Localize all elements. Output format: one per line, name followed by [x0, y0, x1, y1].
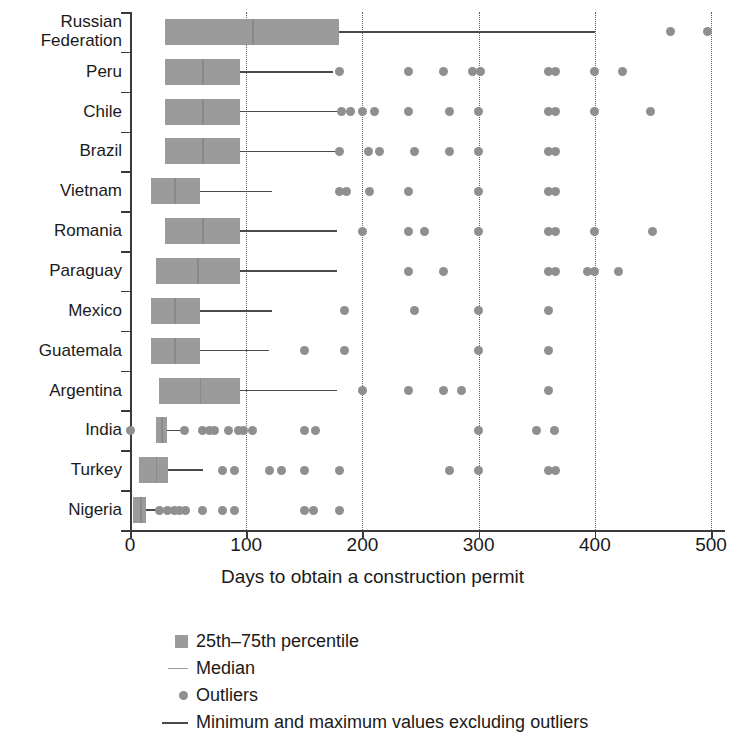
outlier-point — [340, 346, 349, 355]
outlier-point — [230, 466, 239, 475]
median-line — [161, 417, 163, 443]
y-tick — [121, 490, 130, 492]
legend-item: Minimum and maximum values excluding out… — [150, 709, 745, 736]
median-line — [200, 378, 202, 404]
outlier-point — [439, 267, 448, 276]
median-line — [202, 218, 204, 244]
outlier-point — [365, 187, 374, 196]
outlier-point — [410, 306, 419, 315]
short-line-icon-glyph — [168, 668, 188, 670]
outlier-point — [300, 346, 309, 355]
y-tick — [121, 211, 130, 213]
y-tick — [121, 251, 130, 253]
outlier-point — [474, 227, 483, 236]
outlier-point — [551, 466, 560, 475]
outlier-point — [474, 426, 483, 435]
outlier-point — [277, 466, 286, 475]
category-label-india: India — [0, 420, 122, 439]
outlier-point — [532, 426, 541, 435]
y-axis-line — [130, 12, 132, 530]
outlier-point — [551, 67, 560, 76]
outlier-point — [230, 506, 239, 515]
gridline-300 — [479, 12, 480, 530]
outlier-point — [404, 187, 413, 196]
y-tick — [121, 410, 130, 412]
outlier-point — [335, 147, 344, 156]
outlier-point — [544, 346, 553, 355]
outlier-point — [544, 306, 553, 315]
median-line — [202, 59, 204, 85]
outlier-point — [346, 107, 355, 116]
gridline-500 — [711, 12, 712, 530]
outlier-point — [300, 466, 309, 475]
legend-label: Minimum and maximum values excluding out… — [196, 712, 588, 733]
dot-icon-glyph — [179, 691, 188, 700]
outlier-point — [618, 67, 627, 76]
outlier-point — [358, 386, 367, 395]
category-label-turkey: Turkey — [0, 460, 122, 479]
legend-item: 25th–75th percentile — [150, 628, 745, 655]
outlier-point — [474, 107, 483, 116]
x-tick-label-0: 0 — [125, 534, 136, 556]
outlier-point — [342, 187, 351, 196]
outlier-point — [198, 506, 207, 515]
y-tick — [121, 530, 130, 532]
outlier-point — [457, 386, 466, 395]
outlier-point — [445, 466, 454, 475]
outlier-point — [474, 306, 483, 315]
x-tick-label-200: 200 — [347, 534, 379, 556]
outlier-point — [300, 426, 309, 435]
y-tick — [121, 132, 130, 134]
outlier-point — [474, 346, 483, 355]
outlier-point — [340, 306, 349, 315]
gridline-200 — [362, 12, 363, 530]
y-tick — [121, 371, 130, 373]
legend-label: Outliers — [196, 685, 258, 706]
outlier-point — [590, 227, 599, 236]
outlier-point — [218, 506, 227, 515]
outlier-point — [404, 386, 413, 395]
outlier-point — [404, 267, 413, 276]
outlier-point — [646, 107, 655, 116]
outlier-point — [335, 67, 344, 76]
outlier-point — [180, 426, 189, 435]
outlier-point — [445, 147, 454, 156]
x-tick-label-100: 100 — [230, 534, 262, 556]
outlier-point — [218, 466, 227, 475]
category-label-paraguay: Paraguay — [0, 261, 122, 280]
median-line — [174, 298, 176, 324]
boxplot-chart: Russian FederationPeruChileBrazilVietnam… — [0, 0, 745, 739]
x-tick-label-300: 300 — [463, 534, 495, 556]
outlier-point — [358, 107, 367, 116]
median-line — [174, 338, 176, 364]
outlier-point — [364, 147, 373, 156]
outlier-point — [224, 426, 233, 435]
outlier-point — [404, 67, 413, 76]
outlier-point — [370, 107, 379, 116]
outlier-point — [335, 506, 344, 515]
outlier-point — [648, 227, 657, 236]
outlier-point — [404, 227, 413, 236]
outlier-point — [375, 147, 384, 156]
median-line — [156, 457, 158, 483]
outlier-point — [300, 506, 309, 515]
x-axis-title: Days to obtain a construction permit — [0, 566, 745, 588]
outlier-point — [474, 147, 483, 156]
y-tick — [121, 450, 130, 452]
category-label-peru: Peru — [0, 62, 122, 81]
x-axis-tick-labels: 0100200300400500 — [130, 534, 725, 560]
outlier-point — [551, 107, 560, 116]
plot-area — [130, 12, 725, 530]
outlier-point — [474, 187, 483, 196]
outlier-point — [420, 227, 429, 236]
median-line — [202, 99, 204, 125]
outlier-point — [445, 107, 454, 116]
legend-item: Outliers — [150, 682, 745, 709]
median-line — [197, 258, 199, 284]
dot-icon — [150, 691, 196, 700]
legend-item: Median — [150, 655, 745, 682]
square-swatch-icon-glyph — [175, 635, 188, 648]
outlier-point — [439, 386, 448, 395]
y-tick — [121, 171, 130, 173]
legend-label: Median — [196, 658, 255, 679]
